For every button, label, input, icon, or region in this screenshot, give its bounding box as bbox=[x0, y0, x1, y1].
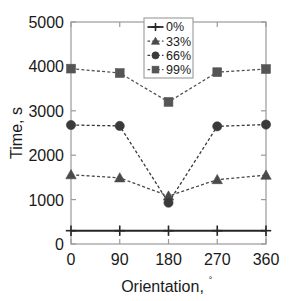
x-tick-label: 270 bbox=[204, 251, 231, 268]
marker-triangle bbox=[66, 170, 76, 179]
legend-label: 33% bbox=[166, 35, 191, 49]
chart-figure: 010002000300040005000090180270360Time, s… bbox=[0, 0, 294, 301]
y-tick-label: 3000 bbox=[28, 103, 64, 120]
x-tick-label: 360 bbox=[253, 251, 280, 268]
y-tick-label: 2000 bbox=[28, 147, 64, 164]
y-tick-label: 5000 bbox=[28, 14, 64, 31]
marker-square bbox=[164, 98, 173, 107]
legend-label: 0% bbox=[166, 20, 184, 34]
y-tick-label: 1000 bbox=[28, 192, 64, 209]
y-tick-label: 4000 bbox=[28, 58, 64, 75]
x-tick-label: 180 bbox=[155, 251, 182, 268]
chart-canvas: 010002000300040005000090180270360Time, s… bbox=[0, 0, 294, 301]
marker-circle bbox=[164, 198, 173, 207]
marker-circle bbox=[213, 122, 222, 131]
legend-label: 99% bbox=[166, 63, 191, 77]
marker-square bbox=[67, 64, 76, 73]
x-tick-label: 0 bbox=[67, 251, 76, 268]
marker-square bbox=[115, 69, 124, 78]
y-tick-label: 0 bbox=[55, 236, 64, 253]
marker-square bbox=[213, 68, 222, 77]
x-tick-label: 90 bbox=[111, 251, 129, 268]
legend-label: 66% bbox=[166, 49, 191, 63]
marker-circle bbox=[115, 121, 124, 130]
marker-circle bbox=[152, 52, 159, 59]
marker-square bbox=[262, 65, 271, 74]
x-axis-unit-degree: ° bbox=[209, 275, 213, 285]
y-axis-title: Time, s bbox=[8, 107, 25, 159]
marker-triangle bbox=[261, 170, 271, 179]
marker-triangle bbox=[115, 173, 125, 182]
marker-circle bbox=[261, 120, 270, 129]
x-axis-title: Orientation, bbox=[121, 278, 204, 295]
marker-square bbox=[152, 66, 159, 73]
marker-circle bbox=[66, 120, 75, 129]
